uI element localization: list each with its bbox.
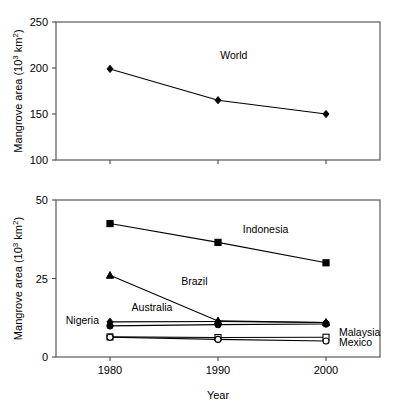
data-point-brazil — [106, 272, 113, 279]
data-point-world — [215, 97, 221, 104]
data-point-mexico — [323, 338, 329, 344]
panel-panel-bottom: 02550198019902000Mangrove area (103 km2)… — [11, 194, 381, 401]
x-axis-title: Year — [207, 389, 230, 401]
series-line-world — [110, 69, 326, 114]
series-label-australia: Australia — [132, 301, 173, 313]
y-tick-label: 25 — [36, 273, 48, 285]
data-point-indonesia — [107, 220, 113, 226]
x-tick-label: 1980 — [98, 364, 122, 376]
plot-frame — [56, 22, 380, 160]
y-axis-title: Mangrove area (103 km2) — [11, 217, 24, 340]
series-label-mexico: Mexico — [339, 336, 372, 348]
data-point-mexico — [107, 334, 113, 340]
y-axis-title: Mangrove area (103 km2) — [11, 29, 24, 152]
figure-container: 100150200250Mangrove area (103 km2)World… — [0, 0, 394, 405]
y-tick-label: 100 — [30, 154, 48, 166]
series-label-world: World — [220, 49, 247, 61]
x-tick-label: 2000 — [314, 364, 338, 376]
x-tick-label: 1990 — [206, 364, 230, 376]
y-tick-label: 250 — [30, 16, 48, 28]
data-point-indonesia — [323, 260, 329, 266]
y-tick-label: 50 — [36, 194, 48, 206]
y-tick-label: 200 — [30, 62, 48, 74]
y-tick-label: 0 — [42, 351, 48, 363]
data-point-indonesia — [215, 239, 221, 245]
series-label-indonesia: Indonesia — [243, 223, 289, 235]
data-point-nigeria — [107, 323, 113, 329]
plot-frame — [56, 200, 380, 357]
data-point-mexico — [215, 336, 221, 342]
panel-panel-top: 100150200250Mangrove area (103 km2)World — [11, 16, 380, 166]
data-point-nigeria — [215, 321, 221, 327]
series-label-brazil: Brazil — [181, 275, 207, 287]
series-label-nigeria: Nigeria — [66, 314, 99, 326]
series-line-brazil — [110, 275, 326, 322]
mangrove-area-chart: 100150200250Mangrove area (103 km2)World… — [0, 0, 394, 405]
y-tick-label: 150 — [30, 108, 48, 120]
data-point-nigeria — [323, 321, 329, 327]
data-point-world — [323, 110, 329, 117]
data-point-world — [107, 65, 113, 72]
